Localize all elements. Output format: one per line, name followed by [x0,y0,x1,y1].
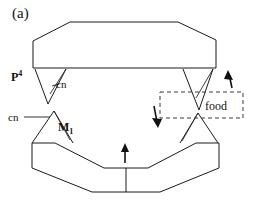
lower-molar-letter: M [58,120,69,134]
panel-label: (a) [12,6,29,21]
lower-molar-label: M1 [58,121,73,133]
food-label: food [205,100,227,112]
lower-right-molar-cusp-line [182,113,198,141]
lower-molar-subscript: 1 [69,127,73,136]
arrow-up-icon-upper-right [224,70,233,88]
upper-jaw-top-right-slope [178,22,216,40]
cusp-upper-label: cn [56,79,66,90]
arrow-up-head-right [224,70,233,80]
arrow-down-head-left [152,118,162,128]
lower-right-molar-triangle [180,113,218,143]
arrow-up-icon-center [121,143,129,163]
food-dashed-box [160,92,243,118]
upper-premolar-label: P4 [11,71,22,83]
upper-premolar-superscript: 4 [18,69,22,78]
figure-container: (a) P4 cn cn M1 food [0,0,253,204]
arrow-up-head-center [121,143,129,152]
cusp-lower-label: cn [8,112,18,123]
upper-jaw-group [33,22,216,68]
lower-right-tooth-group [180,113,218,143]
upper-jaw-top-left-slope [33,22,70,41]
